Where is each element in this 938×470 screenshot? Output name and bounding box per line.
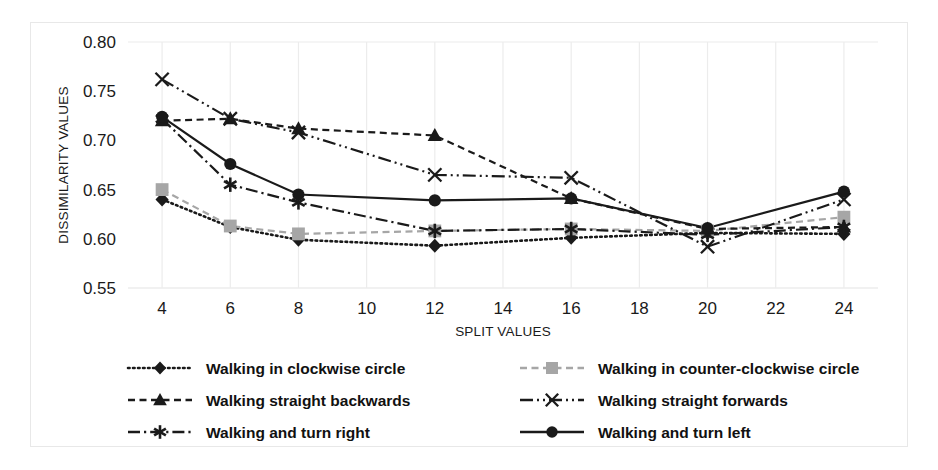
x-tick-label: 16 bbox=[562, 299, 581, 318]
legend-item-5[interactable]: Walking and turn right bbox=[128, 424, 370, 441]
x-tick-label: 10 bbox=[357, 299, 376, 318]
y-tick-label: 0.65 bbox=[83, 181, 116, 200]
x-axis-title: SPLIT VALUES bbox=[455, 324, 551, 339]
marker-square bbox=[292, 227, 305, 240]
x-tick-label: 18 bbox=[630, 299, 649, 318]
x-tick-label: 22 bbox=[766, 299, 785, 318]
y-tick-label: 0.55 bbox=[83, 279, 116, 298]
marker-circle bbox=[701, 222, 713, 234]
marker-square bbox=[224, 220, 237, 233]
marker-circle bbox=[224, 158, 236, 170]
x-tick-label: 14 bbox=[494, 299, 513, 318]
x-tick-label: 8 bbox=[294, 299, 303, 318]
y-tick-label: 0.80 bbox=[83, 33, 116, 52]
y-tick-label: 0.70 bbox=[83, 131, 116, 150]
x-tick-label: 20 bbox=[698, 299, 717, 318]
legend-item-3[interactable]: Walking straight backwards bbox=[128, 392, 410, 409]
x-tick-label: 12 bbox=[425, 299, 444, 318]
legend-label: Walking and turn left bbox=[598, 424, 751, 441]
marker-circle bbox=[429, 194, 441, 206]
legend-label: Walking in counter-clockwise circle bbox=[598, 360, 860, 377]
x-tick-label: 24 bbox=[834, 299, 853, 318]
marker-square bbox=[156, 183, 169, 196]
y-tick-label: 0.60 bbox=[83, 230, 116, 249]
x-tick-label: 4 bbox=[157, 299, 166, 318]
marker-circle bbox=[565, 192, 577, 204]
legend-label: Walking straight backwards bbox=[206, 392, 410, 409]
marker-square bbox=[546, 362, 558, 374]
x-tick-label: 6 bbox=[226, 299, 235, 318]
legend-item-2[interactable]: Walking in counter-clockwise circle bbox=[520, 360, 860, 377]
marker-circle bbox=[838, 185, 850, 197]
legend-label: Walking straight forwards bbox=[598, 392, 788, 409]
legend-item-6[interactable]: Walking and turn left bbox=[520, 424, 751, 441]
marker-circle bbox=[156, 111, 168, 123]
legend-item-1[interactable]: Walking in clockwise circle bbox=[128, 360, 406, 377]
y-axis-title: DISSIMILARITY VALUES bbox=[56, 86, 71, 243]
legend-label: Walking and turn right bbox=[206, 424, 370, 441]
y-tick-label: 0.75 bbox=[83, 82, 116, 101]
legend-item-4[interactable]: Walking straight forwards bbox=[520, 392, 788, 409]
dissimilarity-line-chart: 0.800.750.700.650.600.554681012141618202… bbox=[0, 0, 938, 470]
chart-svg: 0.800.750.700.650.600.554681012141618202… bbox=[0, 0, 938, 470]
marker-diamond bbox=[154, 361, 166, 374]
marker-circle bbox=[292, 188, 304, 200]
marker-circle bbox=[546, 426, 557, 437]
legend-label: Walking in clockwise circle bbox=[206, 360, 406, 377]
marker-diamond bbox=[428, 239, 441, 253]
